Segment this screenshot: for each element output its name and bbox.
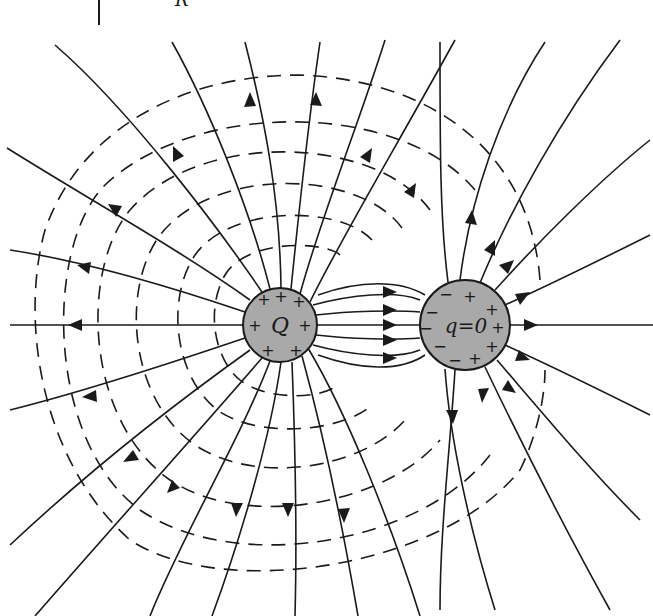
svg-text:+: + bbox=[289, 341, 302, 360]
charge-Q-label: Q bbox=[271, 313, 289, 338]
field-line bbox=[150, 361, 270, 616]
top-fragment: R bbox=[99, 0, 189, 25]
field-line bbox=[212, 362, 281, 616]
field-line bbox=[291, 42, 320, 289]
arrow-icon bbox=[404, 183, 416, 198]
svg-text:+: + bbox=[298, 316, 311, 335]
charge-Q-sphere: + + + + + + + Q bbox=[243, 287, 317, 362]
arrow-icon bbox=[383, 304, 397, 316]
arrow-icon bbox=[360, 148, 372, 163]
field-line bbox=[440, 42, 448, 282]
svg-text:+: + bbox=[248, 316, 261, 335]
svg-text:+: + bbox=[468, 349, 481, 368]
field-line bbox=[10, 250, 245, 312]
field-line bbox=[308, 348, 420, 616]
field-line bbox=[495, 140, 650, 290]
arrow-icon bbox=[502, 380, 516, 393]
svg-text:+: + bbox=[261, 341, 274, 360]
svg-text:+: + bbox=[274, 287, 287, 306]
arrow-icon bbox=[82, 390, 97, 402]
svg-text:−: − bbox=[433, 337, 446, 356]
field-line bbox=[10, 350, 250, 545]
arrow-icon bbox=[68, 319, 82, 331]
fragment-label: R bbox=[174, 0, 189, 10]
svg-text:+: + bbox=[463, 287, 476, 306]
arrow-icon bbox=[484, 240, 495, 256]
arrow-icon bbox=[524, 319, 538, 331]
charge-q-sphere: − − − − − + + + + + q=0 bbox=[419, 280, 510, 370]
svg-text:+: + bbox=[257, 290, 270, 309]
arrow-icon bbox=[123, 450, 139, 462]
field-line bbox=[300, 40, 385, 294]
arrow-icon bbox=[383, 286, 397, 298]
electric-field-diagram: R bbox=[0, 0, 653, 616]
arrow-icon bbox=[383, 352, 397, 364]
svg-text:−: − bbox=[439, 285, 452, 304]
arrow-icon bbox=[231, 503, 243, 517]
field-line bbox=[35, 358, 262, 616]
charge-q-label: q=0 bbox=[445, 314, 488, 338]
arrow-icon bbox=[244, 92, 256, 107]
arrow-icon bbox=[478, 388, 489, 403]
arrow-icon bbox=[282, 503, 294, 517]
field-line bbox=[313, 295, 420, 305]
svg-text:−: − bbox=[419, 319, 432, 338]
field-line bbox=[480, 40, 620, 283]
svg-text:+: + bbox=[485, 300, 498, 319]
field-line bbox=[316, 335, 420, 339]
field-line bbox=[505, 345, 650, 415]
svg-text:+: + bbox=[491, 318, 504, 337]
arrow-icon bbox=[167, 480, 180, 493]
field-line bbox=[172, 42, 270, 289]
field-lines-Q-to-q bbox=[313, 284, 425, 367]
arrow-icon bbox=[173, 146, 184, 162]
field-line bbox=[313, 345, 420, 355]
field-line bbox=[497, 360, 640, 520]
field-line bbox=[292, 362, 296, 616]
field-line bbox=[310, 40, 455, 302]
field-line bbox=[485, 367, 610, 610]
svg-text:+: + bbox=[485, 337, 498, 356]
svg-text:+: + bbox=[292, 292, 305, 311]
field-line bbox=[318, 284, 425, 295]
arrow-icon bbox=[446, 410, 458, 424]
arrow-icon bbox=[383, 334, 397, 346]
field-line bbox=[316, 311, 420, 315]
arrow-icon bbox=[465, 210, 477, 225]
field-line bbox=[318, 355, 425, 367]
svg-text:−: − bbox=[448, 351, 461, 370]
field-line bbox=[460, 42, 545, 280]
arrow-icon bbox=[515, 292, 530, 305]
arrow-icon bbox=[383, 319, 397, 331]
field-line bbox=[10, 338, 245, 410]
